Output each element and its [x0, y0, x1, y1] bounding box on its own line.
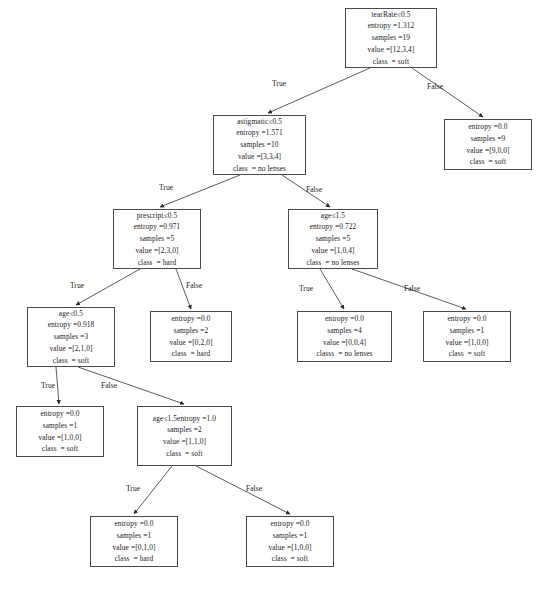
node-text-line: samples =2: [167, 424, 202, 436]
node-text-line: entropy =1.571: [236, 127, 283, 139]
node-text-line: value =[9,0,0]: [466, 145, 509, 157]
node-text-line: class = soft: [166, 448, 202, 460]
leaf-hard-2: entropy =0.0samples =2value =[0,2,0]clas…: [150, 311, 232, 362]
node-text-line: samples =1: [117, 530, 152, 542]
edge-label-false: False: [404, 284, 420, 293]
node-text-line: class = hard: [115, 553, 154, 565]
node-text-line: value =[1,0,4]: [311, 245, 354, 257]
node-text-line: value =[2,3,0]: [135, 245, 178, 257]
node-text-line: entropy =0.918: [48, 319, 95, 331]
node-age-1-5-lower: age≤1.5entropy =1.0samples =2value =[1,1…: [137, 406, 232, 466]
node-text-line: value =[1,0,0]: [445, 337, 488, 349]
node-text-line: entropy =0.0: [447, 313, 486, 325]
node-text-line: entropy =0.0: [171, 313, 210, 325]
node-text-line: class = soft: [470, 156, 506, 168]
node-text-line: samples =10: [240, 139, 278, 151]
node-text-line: value =[1,0,0]: [268, 542, 311, 554]
node-age-0-5: age≤0.5entropy =0.918samples =3value =[2…: [27, 307, 115, 367]
leaf-soft-1-left: entropy =0.0samples =1value =[1,0,0]clas…: [16, 406, 104, 457]
leaf-no-lenses-4: entropy =0.0samples =4value =[0,0,4]clas…: [297, 311, 392, 362]
edge-label-false: False: [101, 381, 117, 390]
node-text-line: entropy =0.0: [325, 313, 364, 325]
edge-label-true: True: [41, 381, 55, 390]
leaf-soft-1-bottom: entropy =0.0samples =1value =[1,0,0]clas…: [246, 516, 334, 567]
tree-edge: [412, 68, 483, 117]
node-text-line: value =[1,0,0]: [38, 432, 81, 444]
node-text-line: entropy =0.722: [310, 221, 357, 233]
node-text-line: samples =2: [174, 325, 209, 337]
node-text-line: class = no lenses: [306, 257, 359, 269]
node-text-line: value =[0,1,0]: [112, 542, 155, 554]
node-text-line: tearRate≤0.5: [371, 9, 410, 21]
node-text-line: class = hard: [172, 348, 211, 360]
node-text-line: age≤1.5: [321, 210, 345, 222]
node-text-line: classs = no lenses: [316, 348, 372, 360]
node-text-line: entropy =0.0: [114, 518, 153, 530]
node-text-line: samples =9: [471, 133, 506, 145]
tree-edge: [320, 269, 344, 309]
node-text-line: samples =1: [450, 325, 485, 337]
leaf-soft-1-right: entropy =0.0samples =1value =[1,0,0]clas…: [423, 311, 511, 362]
node-text-line: entropy =0.0: [270, 518, 309, 530]
edge-label-true: True: [126, 484, 140, 493]
tree-edge: [196, 466, 290, 514]
edge-label-true: True: [272, 79, 286, 88]
node-text-line: astigmatic≤0.5: [237, 116, 282, 128]
tree-edges-layer: [0, 0, 544, 597]
node-text-line: prescript≤0.5: [137, 210, 177, 222]
edge-label-true: True: [299, 284, 313, 293]
tree-edge: [56, 367, 59, 404]
node-text-line: class = hard: [138, 257, 177, 269]
edge-label-false: False: [306, 185, 322, 194]
edge-label-false: False: [186, 281, 202, 290]
node-text-line: samples =3: [54, 331, 89, 343]
tree-edge: [78, 367, 184, 404]
node-prescript: prescript≤0.5entropy =0.971samples =5val…: [113, 209, 201, 269]
node-text-line: samples =19: [372, 32, 410, 44]
node-text-line: samples =5: [140, 233, 175, 245]
node-text-line: class = no lenses: [233, 163, 286, 175]
node-text-line: class = soft: [53, 355, 89, 367]
edge-label-true: True: [159, 183, 173, 192]
node-text-line: samples =4: [327, 325, 362, 337]
node-text-line: entropy =0.971: [134, 221, 181, 233]
root-teaRate: tearRate≤0.5entropy =1.312samples =19val…: [345, 8, 437, 68]
leaf-hard-1: entropy =0.0samples =1value =[0,1,0]clas…: [90, 516, 178, 567]
node-text-line: samples =5: [316, 233, 351, 245]
node-text-line: value =[1,1,0]: [163, 436, 206, 448]
node-text-line: value =[0,2,0]: [169, 337, 212, 349]
tree-edge: [268, 68, 370, 113]
node-text-line: value =[2,1,0]: [49, 343, 92, 355]
node-text-line: class = soft: [373, 56, 409, 68]
node-text-line: class = soft: [272, 553, 308, 565]
node-text-line: samples =1: [273, 530, 308, 542]
leaf-soft-9: entropy =0.0samples =9value =[9,0,0]clas…: [444, 119, 532, 170]
edge-label-false: False: [427, 82, 443, 91]
node-text-line: samples =1: [43, 420, 78, 432]
node-age-1-5: age≤1.5entropy =0.722samples =5value =[1…: [288, 209, 378, 269]
edge-label-false: False: [246, 484, 262, 493]
node-text-line: entropy =1.312: [368, 20, 415, 32]
node-text-line: entropy =0.0: [40, 408, 79, 420]
node-text-line: class = soft: [449, 348, 485, 360]
node-text-line: age≤1.5entropy =1.0: [153, 413, 216, 425]
node-astigmatic: astigmatic≤0.5entropy =1.571samples =10v…: [213, 115, 306, 175]
node-text-line: age≤0.5: [59, 308, 83, 320]
node-text-line: value =[12,3,4]: [368, 44, 415, 56]
node-text-line: value =[3,3,4]: [238, 151, 281, 163]
node-text-line: value =[0,0,4]: [323, 337, 366, 349]
tree-edge: [76, 269, 140, 305]
edge-label-true: True: [70, 281, 84, 290]
decision-tree-diagram: tearRate≤0.5entropy =1.312samples =19val…: [0, 0, 544, 597]
node-text-line: class = soft: [42, 443, 78, 455]
node-text-line: entropy =0.0: [468, 121, 507, 133]
